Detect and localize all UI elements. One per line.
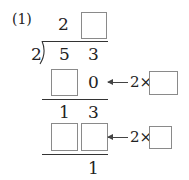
quotient-ones-answer-box[interactable] [81,12,107,39]
divisor: 2 [31,46,42,63]
quotient-tens-digit: 2 [58,16,69,33]
dividend-tens-digit: 5 [59,46,70,63]
subtraction-line-1 [42,99,108,100]
left-arrow-icon [108,82,128,83]
problem-label: (1) [12,12,32,26]
division-bar [42,41,108,42]
subtraction-line-2 [42,154,108,155]
remainder1-ones-digit: 3 [88,104,99,121]
remainder1-tens-digit: 1 [59,104,70,121]
hint1-answer-box[interactable] [149,71,178,95]
product1-ones-digit: 0 [88,74,99,91]
product1-tens-answer-box[interactable] [51,69,78,96]
dividend-ones-digit: 3 [88,46,99,63]
left-arrow-icon [108,137,128,138]
hint2-answer-box[interactable] [149,126,172,149]
product2-ones-answer-box[interactable] [81,123,108,151]
final-remainder-digit: 1 [88,160,99,177]
product2-tens-answer-box[interactable] [51,123,78,151]
